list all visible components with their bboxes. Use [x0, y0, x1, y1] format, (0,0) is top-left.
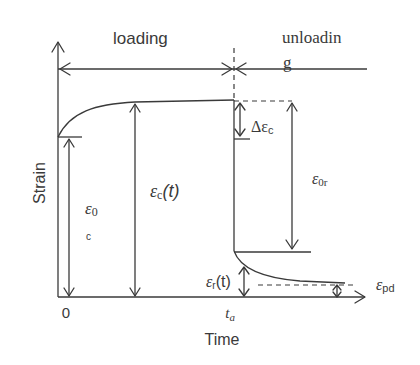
epsr-t-dimension — [239, 267, 249, 296]
epspd-dimension — [258, 285, 357, 297]
eps0c-label: ε0 — [85, 199, 98, 219]
unloading-recovery-curve — [234, 251, 345, 283]
unloading-label-line1: unloadin — [282, 28, 342, 47]
epsc-t-label: εc(t) — [150, 181, 179, 202]
strain-time-diagram: loading unloadin g Strain 0 ta Time ε0 c — [0, 0, 420, 365]
eps0c-sub-label: c — [86, 231, 91, 242]
loading-label: loading — [113, 29, 168, 48]
epsr-t-label: εr(t) — [206, 273, 231, 291]
loading-creep-curve — [58, 100, 234, 137]
y-axis-label: Strain — [31, 162, 48, 204]
x-axis-label: Time — [205, 331, 240, 348]
epspd-label: εpd — [376, 276, 395, 294]
epsc-t-dimension — [130, 104, 140, 296]
diagram-svg: loading unloadin g Strain 0 ta Time ε0 c — [0, 0, 420, 365]
ta-tick-label: ta — [225, 305, 235, 323]
eps0c-dimension — [58, 137, 82, 296]
origin-tick-label: 0 — [62, 304, 70, 321]
delta-epsc-label: Δεc — [251, 118, 274, 136]
eps0r-label: ε0r — [312, 170, 328, 188]
phase-span — [58, 48, 367, 101]
x-axis — [58, 291, 365, 303]
y-axis — [52, 42, 64, 297]
